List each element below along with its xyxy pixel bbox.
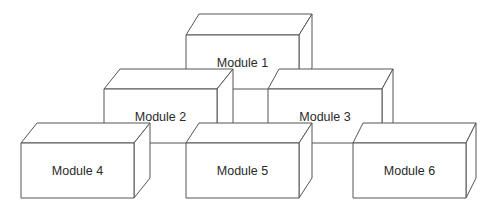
block-top-face <box>268 69 393 89</box>
module-label: Module 1 <box>217 56 268 70</box>
block-top-face <box>186 123 312 143</box>
module-block-6: Module 6 <box>353 123 476 198</box>
module-block-4: Module 4 <box>21 123 150 198</box>
module-stack-diagram: Module 1Module 2Module 3Module 4Module 5… <box>0 0 494 209</box>
block-top-face <box>21 123 150 143</box>
block-top-face <box>353 123 476 143</box>
module-block-5: Module 5 <box>186 123 312 198</box>
module-label: Module 2 <box>135 110 186 124</box>
block-top-face <box>186 14 312 35</box>
module-label: Module 6 <box>384 164 435 178</box>
module-label: Module 5 <box>217 164 268 178</box>
module-label: Module 3 <box>299 110 350 124</box>
block-top-face <box>104 69 233 89</box>
module-label: Module 4 <box>52 164 103 178</box>
